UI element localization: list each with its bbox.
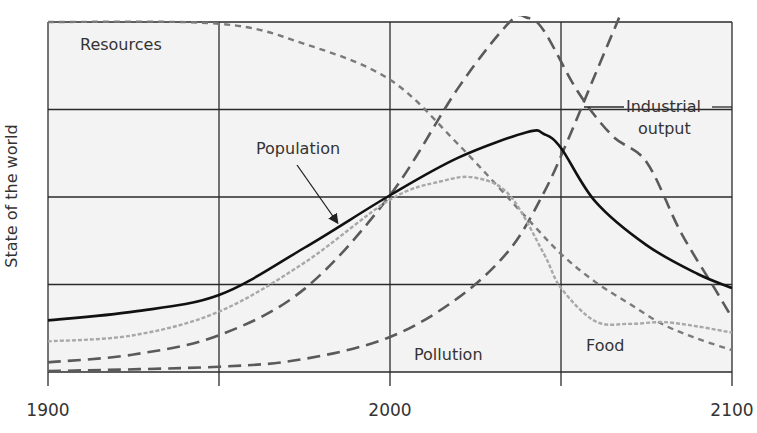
label-industrial-line2: output bbox=[638, 121, 691, 137]
label-industrial-line1: Industrial bbox=[626, 99, 701, 115]
label-food: Food bbox=[586, 338, 624, 354]
x-tick-1900: 1900 bbox=[26, 400, 69, 420]
x-tick-2100: 2100 bbox=[710, 400, 753, 420]
label-population: Population bbox=[256, 141, 340, 157]
label-pollution: Pollution bbox=[414, 347, 483, 363]
chart-canvas bbox=[0, 0, 757, 433]
label-resources: Resources bbox=[80, 37, 162, 53]
x-tick-2000: 2000 bbox=[368, 400, 411, 420]
y-axis-label: State of the world bbox=[2, 124, 21, 267]
